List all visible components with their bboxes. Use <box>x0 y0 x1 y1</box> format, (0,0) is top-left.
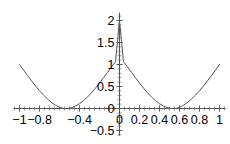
chart-figure: −1−0.8−0.400.20.40.60.81 21.510.50−0.5 <box>0 0 230 144</box>
y-tick-label: 1.5 <box>97 36 114 49</box>
x-tick-label: 0.4 <box>151 114 168 127</box>
x-tick-label: 0.2 <box>131 114 148 127</box>
y-tick-label: 2 <box>108 14 115 27</box>
x-tick-label: 0.6 <box>171 114 188 127</box>
x-tick-label: 1 <box>216 114 223 127</box>
y-tick-label: 0 <box>108 102 115 115</box>
y-tick-label: −0.5 <box>90 124 115 137</box>
x-tick-label: −0.8 <box>27 114 52 127</box>
y-tick-label: 0.5 <box>97 80 114 93</box>
x-tick-label: 0 <box>116 114 123 127</box>
x-tick-label: −0.4 <box>67 114 92 127</box>
y-tick-label: 1 <box>108 58 115 71</box>
x-tick-label: 0.8 <box>191 114 208 127</box>
x-tick-label: −1 <box>12 114 26 127</box>
